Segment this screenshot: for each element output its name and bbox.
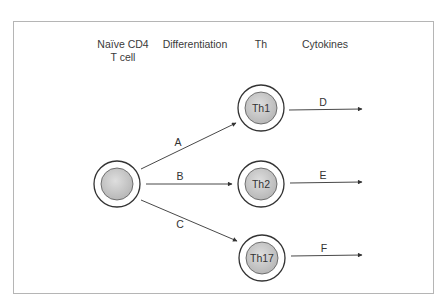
arrow-c [141,200,237,241]
arrow-d [289,109,362,110]
arrow-f [291,255,362,256]
th1-label: Th1 [252,102,270,114]
arrow-e-label: E [319,169,326,181]
arrow-b-label: B [176,170,183,182]
th2-label: Th2 [252,178,270,190]
th1-cell: Th1 [238,85,284,131]
arrow-e [290,182,362,183]
arrow-a [141,123,236,169]
arrow-a-label: A [174,136,181,148]
diagram-svg: Th1 Th2 Th17 A B C D E F [0,0,446,304]
arrow-c-label: C [176,218,184,230]
th17-cell: Th17 [239,235,285,281]
th17-label: Th17 [250,252,274,264]
th2-cell: Th2 [238,161,284,207]
naive-t-cell [94,161,140,207]
arrow-f-label: F [321,242,327,254]
arrow-d-label: D [319,96,327,108]
